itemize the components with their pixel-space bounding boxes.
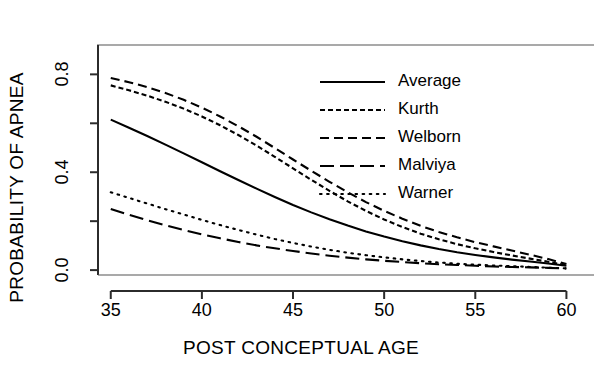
x-tick-label-50: 50 xyxy=(364,300,404,321)
y-tick-label-0.8: 0.8 xyxy=(50,54,74,94)
series-line-average xyxy=(111,120,567,266)
legend-line-samples xyxy=(320,82,385,194)
series-line-malviya xyxy=(111,209,567,268)
series-line-kurth xyxy=(111,85,567,265)
legend-label-welborn: Welborn xyxy=(398,127,461,147)
legend-label-average: Average xyxy=(398,71,461,91)
x-tick-label-35: 35 xyxy=(91,300,131,321)
x-tick-label-60: 60 xyxy=(546,300,586,321)
y-axis-title: PROBABILITY OF APNEA xyxy=(0,0,34,375)
x-tick-label-55: 55 xyxy=(455,300,495,321)
series-line-welborn xyxy=(111,78,567,264)
x-tick-label-45: 45 xyxy=(273,300,313,321)
y-tick-label-0.4: 0.4 xyxy=(50,152,74,192)
legend-label-malviya: Malviya xyxy=(398,155,456,175)
x-axis-title: POST CONCEPTUAL AGE xyxy=(0,337,602,359)
chart-figure: POST CONCEPTUAL AGE PROBABILITY OF APNEA… xyxy=(0,0,602,375)
data-series-group xyxy=(111,78,567,268)
y-tick-label-0.0: 0.0 xyxy=(50,250,74,290)
legend-label-warner: Warner xyxy=(398,183,453,203)
legend-label-kurth: Kurth xyxy=(398,99,439,119)
x-tick-label-40: 40 xyxy=(182,300,222,321)
